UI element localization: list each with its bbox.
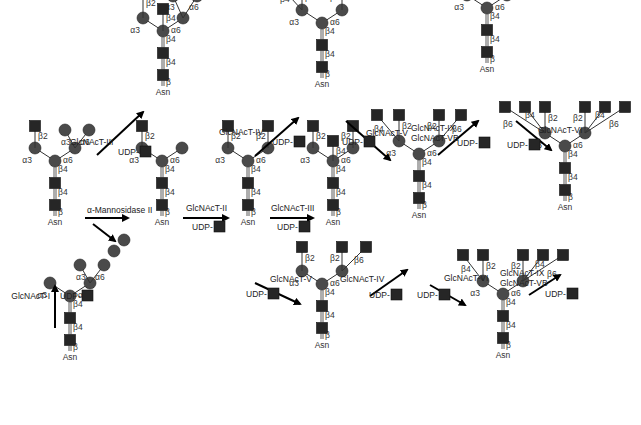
asn-label: Asn [326,217,341,227]
glcnac-icon [297,242,308,253]
linkage-label: β4 [568,149,578,159]
linkage-label: β6 [609,119,619,129]
glcnac-icon [479,137,490,148]
glcnac-icon [294,136,305,147]
linkage-label: α6 [495,2,505,12]
glcnac-icon [50,200,61,211]
glcnac-icon [439,289,450,300]
enzyme-label-r7: GlcNAcT-V [270,274,312,284]
linkage-label: β6 [354,255,364,265]
mannose-icon [316,278,328,290]
glcnac-icon [308,121,319,132]
udp-glcnac-r3: UDP- [118,146,151,157]
enzyme-label-r12: GlcNAcT-VI [538,125,582,135]
linkage-label: α3 [215,155,225,165]
glycan-g11: Asnββ4β4α3α6β2β4β2β4β6 [458,250,569,361]
udp-glcnac-r7: UDP- [246,288,279,299]
mannose-icon [74,259,86,271]
glcnac-icon [263,121,274,132]
svg-text:UDP-: UDP- [272,137,293,147]
linkage-label: α6 [171,25,181,35]
svg-text:UDP-: UDP- [118,147,139,157]
asn-label: Asn [155,217,170,227]
glcnac-icon [243,200,254,211]
mannose-icon [118,234,130,246]
glcnac-icon [558,250,569,261]
svg-text:UDP-: UDP- [457,138,478,148]
glycan-g8: Asnββ4β4α3α6β2β2β6 [289,242,371,351]
mannose-icon [413,148,425,160]
svg-text:UDP-: UDP- [60,291,81,301]
linkage-label: β4 [280,0,290,4]
enzyme-label-r9: GlcNAcT-IV [340,274,385,284]
udp-glcnac-r5: UDP- [277,221,310,232]
glcnac-icon [482,47,493,58]
linkage-label: α6 [330,17,340,27]
mannose-icon [98,259,110,271]
glcnac-icon [328,200,339,211]
linkage-label: β4 [165,164,175,174]
glcnac-icon [498,311,509,322]
linkage-label: β4 [525,110,535,120]
linkage-label: β2 [330,253,340,263]
linkage-label: α6 [330,278,340,288]
mannose-icon [59,124,71,136]
linkage-label: α6 [427,148,437,158]
asn-label: Asn [412,210,427,220]
svg-text:UDP-: UDP- [277,222,298,232]
glcnac-icon [364,136,375,147]
linkage-label: β4 [595,110,605,120]
enzyme-label-r13: GlcNAcT-IXGlcNAcT-VB [500,268,548,288]
mannose-icon [176,142,188,154]
linkage-label: α6 [341,155,351,165]
udp-glcnac-r4: UDP- [192,221,225,232]
udp-glcnac-r10: UDP- [457,137,490,148]
mannose-icon [501,0,513,1]
glcnac-icon [317,301,328,312]
svg-text:UDP-: UDP- [369,290,390,300]
glcnac-icon [243,178,254,189]
linkage-label: α6 [256,155,266,165]
glcnac-icon [580,102,591,113]
glcnac-icon [434,110,445,121]
glcnac-icon [82,290,93,301]
enzyme-label-r4: GlcNAcT-II [186,203,227,213]
glcnac-icon [65,335,76,346]
glcnac-icon [65,313,76,324]
glcnac-icon [328,178,339,189]
svg-text:UDP-: UDP- [507,140,528,150]
mannose-icon [49,155,61,167]
diagram-svg: Asnββ4β4α3α6α3α6Asnββ4β4α3α6α3α6β2Asnββ4… [0,0,641,425]
linkage-label: β2 [145,131,155,141]
svg-text:UDP-: UDP- [342,137,363,147]
asn-label: Asn [480,64,495,74]
glcnac-icon [337,242,348,253]
glycan-g12: Asnββ4β4α3α6β2β4β6β2β4β6 [500,102,631,213]
udp-glcnac-r8: UDP- [342,136,375,147]
glcnac-icon [560,163,571,174]
glcnac-icon [518,250,529,261]
asn-label: Asn [315,79,330,89]
glcnac-icon [158,70,169,81]
glcnac-icon [317,323,328,334]
linkage-label: α3 [76,272,86,282]
glcnac-icon [540,102,551,113]
glcnac-icon [50,178,61,189]
asn-label: Asn [48,217,63,227]
linkage-label: α3 [470,288,480,298]
linkage-label: β4 [325,26,335,36]
linkage-label: β4 [422,157,432,167]
udp-glcnac-r13: UDP- [545,288,578,299]
udp-glcnac-r11: UDP- [417,289,450,300]
asn-label: Asn [558,202,573,212]
glcnac-icon [414,193,425,204]
linkage-label: β2 [146,0,156,8]
udp-glcnac-r1: UDP- [60,290,93,301]
linkage-label: α3 [454,2,464,12]
linkage-label: α3 [130,25,140,35]
linkage-label: β2 [330,0,340,2]
glcnac-icon [157,200,168,211]
linkage-label: α6 [511,288,521,298]
enzyme-label-r2: α-Mannosidase II [87,205,152,215]
glcnac-icon [317,62,328,73]
